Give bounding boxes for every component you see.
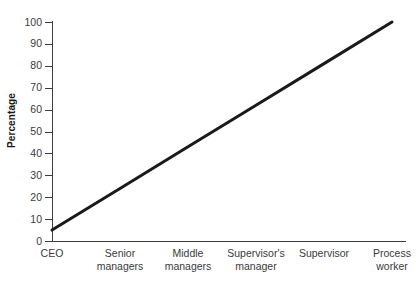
x-axis-tick-label: Middle managers [154,247,222,273]
x-axis-tick-label: Senior managers [86,247,154,273]
x-axis-tick-labels: CEOSenior managersMiddle managersSupervi… [52,247,406,287]
x-axis-tick-label: Process worker [358,247,416,273]
series-line-percentage [52,22,392,230]
line-chart: Percentage 0102030405060708090100 CEOSen… [0,0,416,290]
x-axis-tick-label: Supervisor's manager [222,247,290,273]
x-axis-tick-label: CEO [18,247,86,260]
x-axis-tick-label: Supervisor [290,247,358,260]
